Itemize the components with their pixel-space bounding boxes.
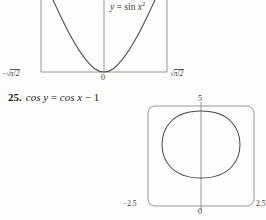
- exercise-line: 25.cos y = cos x − 1: [8, 91, 99, 103]
- x-axis-min-label: −√π/2: [2, 63, 20, 79]
- y-axis-max-label: 5: [198, 95, 202, 103]
- graph-canvas-sin-x-squared: [0, 0, 266, 88]
- equation-label-sin-x-squared: y = sin x2: [110, 3, 145, 13]
- x-axis-min-label-bottom: −2.5: [123, 200, 137, 208]
- origin-label-bottom-figure: 0: [198, 208, 202, 216]
- figure-sin-x-squared: y = sin x2 −√π/2 0 √π/2: [0, 0, 266, 88]
- origin-label-top-figure: 0: [101, 74, 105, 82]
- x-axis-max-label-bottom: 2.5: [256, 200, 265, 208]
- exercise-number: 25.: [8, 91, 22, 103]
- figure-cos-y-cos-x-minus-1: 5 −2.5 0 2.5: [130, 96, 266, 220]
- graph-canvas-cos-y: [130, 96, 266, 220]
- exercise-expression: cos y = cos x − 1: [26, 91, 100, 103]
- x-axis-max-label: √π/2: [170, 63, 184, 79]
